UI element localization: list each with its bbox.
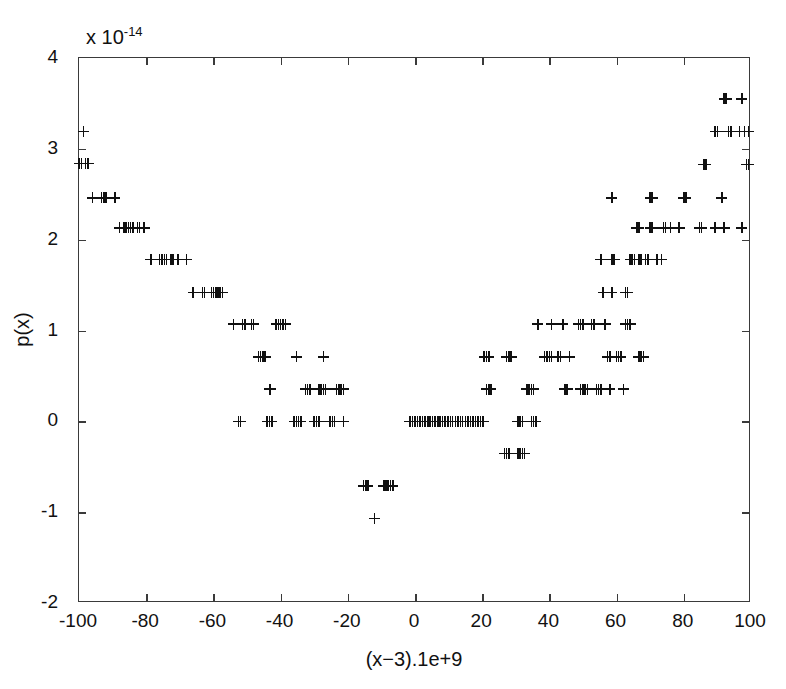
data-point-marker — [338, 416, 349, 427]
data-point-marker — [674, 222, 685, 233]
data-point-marker — [606, 287, 617, 298]
y-tick-label: 3 — [47, 137, 58, 159]
data-point-marker — [362, 480, 373, 491]
data-point-marker — [696, 222, 707, 233]
data-point-marker — [680, 192, 691, 203]
exponent-power: -14 — [124, 24, 143, 39]
data-point-marker — [266, 416, 277, 427]
data-point-marker — [622, 287, 633, 298]
data-point-marker — [139, 222, 150, 233]
y-axis-exponent-label: x 10-14 — [86, 24, 143, 49]
y-tick-label: 0 — [47, 409, 58, 431]
data-point-marker — [625, 319, 636, 330]
x-axis-title: (x−3).1e+9 — [78, 648, 750, 671]
data-point-marker — [83, 158, 94, 169]
data-point-marker — [313, 416, 324, 427]
data-point-marker — [638, 351, 649, 362]
y-tick-label-group: -2-101234 — [0, 57, 68, 602]
data-point-marker — [295, 416, 306, 427]
data-point-marker — [700, 159, 711, 170]
figure-canvas: x 10-14 p(x) -2-101234 -100-80-60-40-200… — [0, 0, 786, 689]
x-tick-label: 20 — [471, 610, 492, 632]
data-point-marker — [320, 384, 331, 395]
data-point-marker — [291, 351, 302, 362]
data-point-marker — [478, 416, 489, 427]
x-tick-label: 0 — [409, 610, 420, 632]
x-tick-label: 40 — [538, 610, 559, 632]
data-point-marker — [609, 254, 620, 265]
data-point-marker — [318, 351, 329, 362]
data-point-marker — [532, 319, 543, 330]
data-point-marker — [280, 319, 291, 330]
data-point-marker — [656, 254, 667, 265]
data-point-marker — [338, 384, 349, 395]
y-tick-label: 2 — [47, 228, 58, 250]
data-point-marker — [248, 319, 259, 330]
x-tick-label: -20 — [333, 610, 360, 632]
data-point-marker — [369, 513, 380, 524]
y-tick-label: -1 — [41, 500, 58, 522]
y-tick-label: -2 — [41, 591, 58, 613]
x-tick-label: 60 — [605, 610, 626, 632]
data-point-marker — [647, 192, 658, 203]
data-point-marker — [743, 126, 754, 137]
data-point-marker — [217, 287, 228, 298]
data-point-marker — [483, 351, 494, 362]
plot-area — [78, 57, 750, 602]
data-point-marker — [506, 351, 517, 362]
data-point-marker — [109, 192, 120, 203]
data-point-marker — [181, 254, 192, 265]
data-point-marker — [530, 416, 541, 427]
x-tick-label: -60 — [199, 610, 226, 632]
data-point-marker — [736, 93, 747, 104]
data-point-marker — [562, 384, 573, 395]
data-point-marker — [633, 222, 644, 233]
data-point-marker — [719, 222, 730, 233]
data-point-marker — [604, 384, 615, 395]
data-point-marker — [618, 384, 629, 395]
data-point-marker — [564, 351, 575, 362]
data-point-marker — [743, 159, 754, 170]
y-tick-label: 4 — [47, 46, 58, 68]
data-point-marker — [615, 351, 626, 362]
data-point-marker — [589, 319, 600, 330]
x-tick-label: 80 — [672, 610, 693, 632]
data-point-marker — [260, 351, 271, 362]
data-point-marker — [546, 319, 557, 330]
data-point-marker — [265, 384, 276, 395]
data-point-marker — [716, 192, 727, 203]
data-marker-layer — [79, 58, 749, 601]
data-point-marker — [387, 480, 398, 491]
data-point-marker — [600, 319, 611, 330]
data-point-marker — [235, 416, 246, 427]
x-tick-label-group: -100-80-60-40-20020406080100 — [78, 610, 750, 640]
data-point-marker — [647, 222, 658, 233]
data-point-marker — [557, 319, 568, 330]
x-tick-label: -80 — [131, 610, 158, 632]
x-tick-label: -40 — [266, 610, 293, 632]
exponent-prefix: x 10 — [86, 26, 124, 48]
data-point-marker — [721, 93, 732, 104]
x-tick-label: 100 — [734, 610, 766, 632]
data-point-marker — [595, 254, 606, 265]
x-axis-title-text: (x−3).1e+9 — [366, 648, 463, 670]
data-point-marker — [485, 384, 496, 395]
data-point-marker — [712, 126, 723, 137]
x-tick-label: -100 — [59, 610, 97, 632]
data-point-marker — [736, 222, 747, 233]
data-point-marker — [606, 192, 617, 203]
data-point-marker — [519, 448, 530, 459]
data-point-marker — [528, 384, 539, 395]
y-tick-label: 1 — [47, 319, 58, 341]
data-point-marker — [78, 126, 89, 137]
